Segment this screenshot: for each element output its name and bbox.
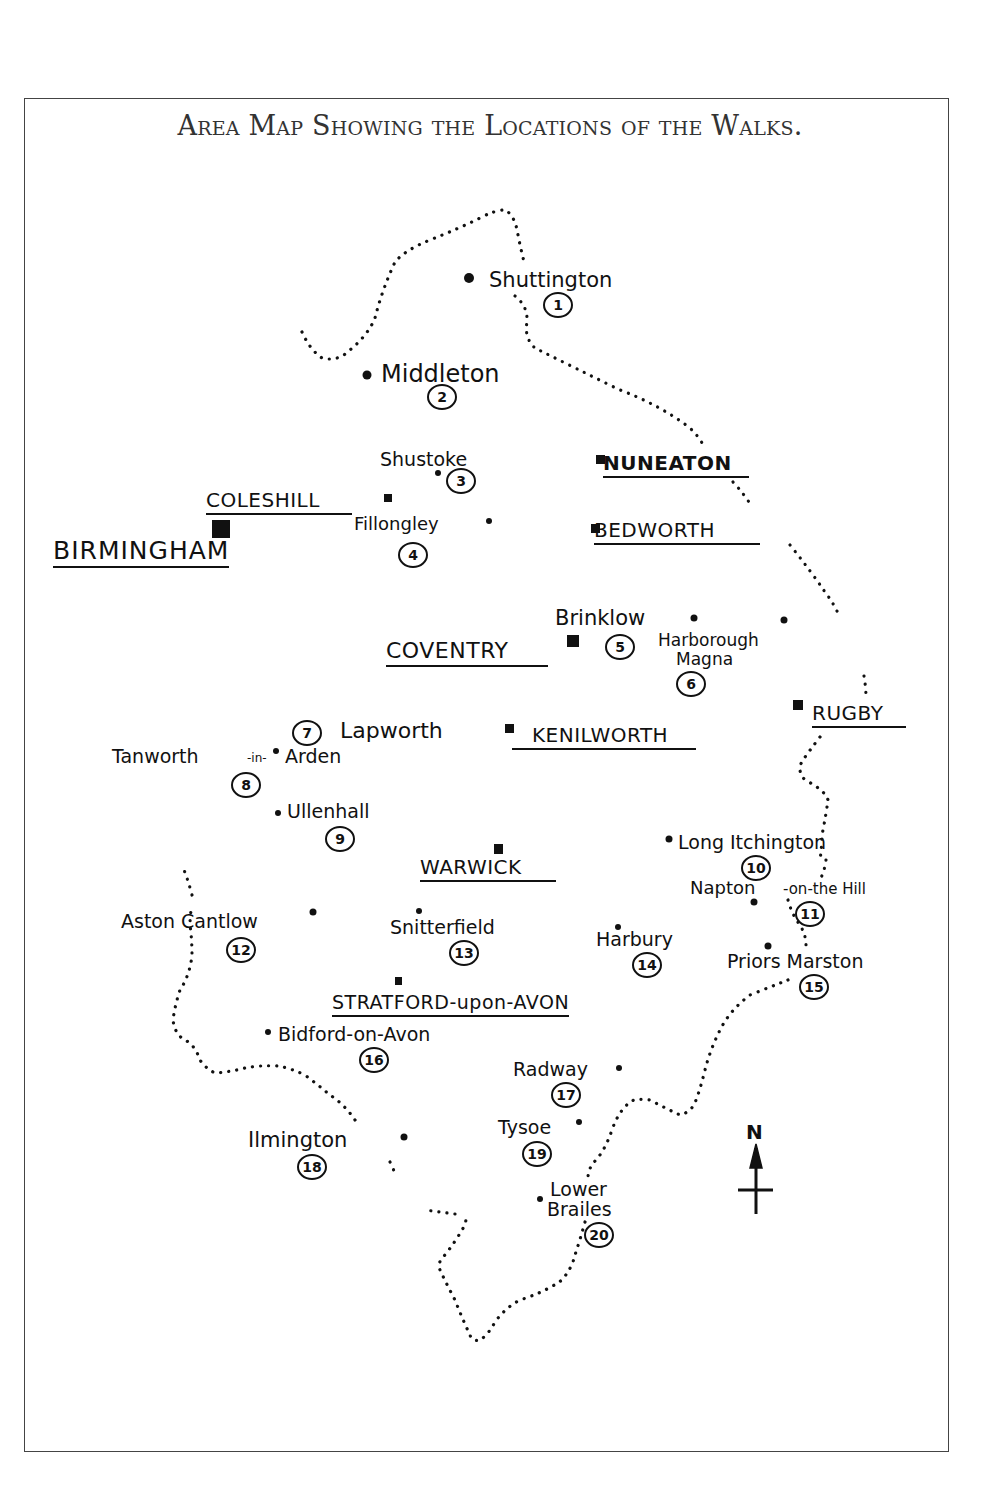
walk-number-20: 20 <box>584 1222 614 1248</box>
county-boundary <box>173 210 866 1340</box>
warwick-marker <box>494 844 503 854</box>
walk-number-11: 11 <box>795 901 825 927</box>
walk-label-brinklow: Brinklow <box>555 608 645 629</box>
coleshill-marker <box>384 494 392 502</box>
north-arrow-icon <box>738 1144 773 1214</box>
walk-label-tysoe: Tysoe <box>498 1118 551 1137</box>
walk-number-12: 12 <box>226 937 256 963</box>
town-label-warwick: WARWICK <box>420 857 556 882</box>
walk-number-8: 8 <box>231 772 261 798</box>
town-label-coleshill: COLESHILL <box>206 490 352 515</box>
walk-label-ilmington: Ilmington <box>248 1130 347 1151</box>
walk-number-4: 4 <box>398 542 428 568</box>
walk-label-long-itchington: Long Itchington <box>678 833 826 852</box>
walk-label-harborough-magna-line2: Magna <box>676 651 733 668</box>
walk-label-snitterfield: Snitterfield <box>390 918 495 937</box>
walk-number-6: 6 <box>676 671 706 697</box>
walk-label-tanworth-line1: Tanworth <box>112 747 199 766</box>
town-label-kenilworth: KENILWORTH <box>512 725 696 750</box>
walk-number-14: 14 <box>632 952 662 978</box>
walk-label-lower-brailes-line1: Lower <box>550 1180 607 1199</box>
walk-number-1: 1 <box>543 292 573 318</box>
walk-number-19: 19 <box>522 1141 552 1167</box>
walk-label-harbury: Harbury <box>596 930 673 949</box>
walk-label-radway: Radway <box>513 1060 588 1079</box>
walk-number-9: 9 <box>325 826 355 852</box>
town-label-bedworth: BEDWORTH <box>594 520 760 545</box>
town-label-stratford: STRATFORD-upon-AVON <box>332 993 569 1017</box>
walk-number-13: 13 <box>449 940 479 966</box>
walk-label-aston-cantlow: Aston Cantlow <box>121 912 258 931</box>
walk-label-ullenhall: Ullenhall <box>287 802 369 821</box>
walk-label-tanworth-line2: -in- <box>247 752 267 764</box>
walk-label-middleton: Middleton <box>381 362 500 386</box>
walk-number-2: 2 <box>427 384 457 410</box>
walk-label-bidford: Bidford-on-Avon <box>278 1025 430 1044</box>
walk-number-18: 18 <box>297 1154 327 1180</box>
rugby-marker <box>793 700 803 710</box>
walk-number-3: 3 <box>446 468 476 494</box>
walk-label-napton-line2: -on-the Hill <box>783 882 866 897</box>
stratford-marker <box>395 977 402 985</box>
walk-number-7: 7 <box>292 720 322 746</box>
walk-label-tanworth-line3: Arden <box>285 747 341 766</box>
walk-label-shuttington: Shuttington <box>489 270 612 291</box>
town-label-rugby: RUGBY <box>812 703 906 728</box>
walk-label-shustoke: Shustoke <box>380 450 467 469</box>
walk-number-17: 17 <box>551 1082 581 1108</box>
walk-number-5: 5 <box>605 634 635 660</box>
walk-label-harborough-magna-line1: Harborough <box>658 632 759 649</box>
walk-label-priors-marston: Priors Marston <box>727 952 863 971</box>
walk-label-napton-line1: Napton <box>690 879 755 897</box>
walk-number-16: 16 <box>359 1047 389 1073</box>
town-label-nuneaton: NUNEATON <box>603 453 749 478</box>
coventry-marker <box>567 635 579 647</box>
walk-label-lower-brailes-line2: Brailes <box>547 1200 612 1219</box>
walk-label-lapworth: Lapworth <box>340 720 443 742</box>
walk-number-15: 15 <box>799 974 829 1000</box>
town-label-coventry: COVENTRY <box>386 640 548 667</box>
north-label: N <box>746 1120 763 1144</box>
town-label-birmingham: BIRMINGHAM <box>53 538 229 568</box>
walk-label-fillongley: Fillongley <box>354 515 439 533</box>
